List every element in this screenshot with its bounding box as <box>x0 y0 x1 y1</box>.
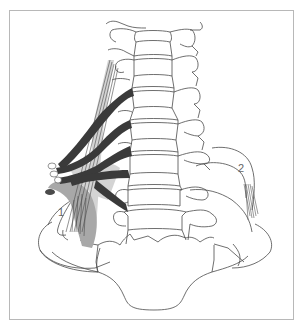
sacrum-body <box>96 245 214 310</box>
left-iliac-crest <box>39 222 111 268</box>
label-1: 1 <box>58 206 64 218</box>
vertebra-l1 <box>132 92 174 108</box>
anatomy-figure: 1 2 <box>0 0 306 327</box>
vertebra-t11 <box>135 31 172 43</box>
label-2: 2 <box>238 162 244 174</box>
vertebra-l2 <box>130 124 178 140</box>
spine-pelvis-illustration: 1 2 <box>0 0 306 327</box>
vertebra-l3 <box>130 156 178 174</box>
vertebra-t12 <box>134 60 172 76</box>
vertebra-l5 <box>124 212 186 230</box>
muscle-stump <box>45 189 55 195</box>
sacrum-top <box>98 234 214 245</box>
vertebra-l4 <box>128 190 180 206</box>
